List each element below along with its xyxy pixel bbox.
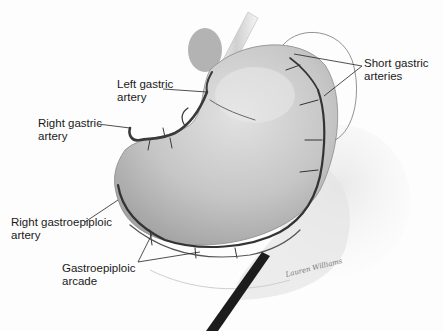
label-right-gastric-artery: Right gastric artery — [38, 117, 102, 143]
stomach-illustration: Left gastric artery Right gastric artery… — [0, 0, 443, 331]
label-short-gastric-arteries: Short gastric arteries — [364, 57, 429, 83]
label-left-gastric-artery: Left gastric artery — [117, 78, 173, 104]
label-gastroepiploic-arcade: Gastroepiploic arcade — [62, 262, 136, 288]
label-right-gastroepiploic-artery: Right gastroepiploic artery — [11, 216, 112, 242]
